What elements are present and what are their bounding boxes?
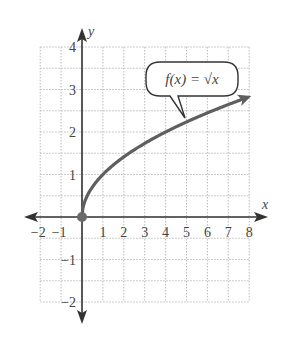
x-tick-label: 8	[246, 225, 253, 240]
x-tick-label: 6	[204, 225, 211, 240]
y-tick-label: 4	[69, 40, 76, 55]
x-tick-label: 1	[99, 225, 106, 240]
y-tick-label: −2	[61, 295, 76, 310]
sqrt-function-graph: −2−1123456784321−1−2 f(x) = √x x y	[0, 0, 282, 339]
sqrt-curve	[82, 99, 244, 217]
x-tick-label: −1	[52, 225, 67, 240]
x-tick-label: 5	[183, 225, 190, 240]
x-tick-label: 7	[225, 225, 232, 240]
x-tick-label: 2	[120, 225, 127, 240]
x-tick-label: 4	[162, 225, 169, 240]
x-axis-label: x	[261, 197, 269, 212]
x-tick-label: −2	[31, 225, 46, 240]
y-axis-label: y	[86, 24, 95, 39]
y-tick-label: 1	[69, 168, 76, 183]
origin-point	[77, 212, 87, 222]
callout: f(x) = √x	[146, 62, 238, 118]
y-tick-label: −1	[61, 253, 76, 268]
y-tick-label: 2	[69, 125, 76, 140]
y-tick-label: 3	[69, 83, 76, 98]
x-tick-label: 3	[141, 225, 148, 240]
callout-label: f(x) = √x	[165, 71, 219, 88]
